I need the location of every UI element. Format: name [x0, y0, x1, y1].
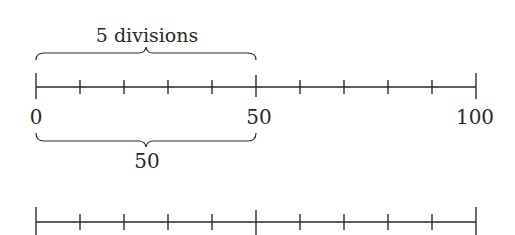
axis-label-0: 0: [30, 105, 43, 129]
bottom-number-line: [36, 207, 476, 235]
top-brace: [36, 47, 256, 60]
axis-label-50: 50: [246, 105, 271, 129]
bottom-brace: [36, 133, 256, 147]
top-number-line: [36, 73, 476, 99]
divisions-label: 5 divisions: [96, 24, 198, 46]
axis-label-100: 100: [456, 105, 494, 129]
number-line-diagram: 5 divisions 0 50 100 50: [0, 0, 515, 235]
span-value-label: 50: [134, 149, 159, 173]
